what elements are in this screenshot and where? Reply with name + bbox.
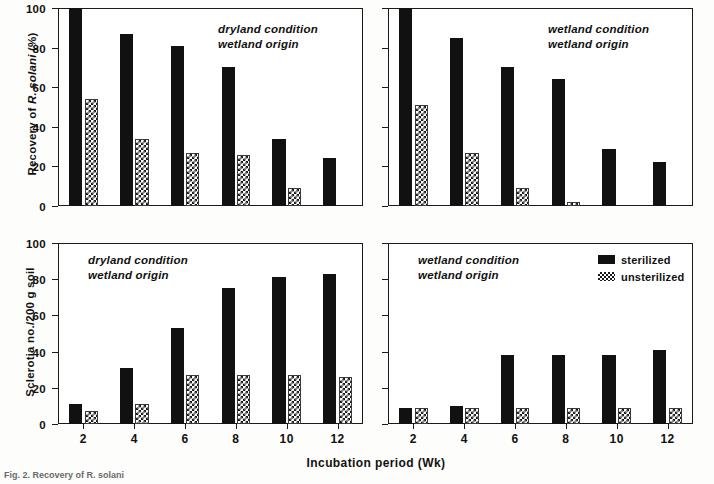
bar-unsterilized-wk10 bbox=[288, 375, 301, 424]
x-tick-wk12 bbox=[668, 424, 669, 429]
x-tick-label-wk2: 2 bbox=[80, 432, 87, 446]
y-tick-60: 60 bbox=[52, 87, 58, 88]
y-tick-100 bbox=[382, 8, 388, 9]
legend-label-sterilized: sterilized bbox=[621, 254, 671, 266]
legend-swatch-sterilized-icon bbox=[598, 255, 615, 264]
axis-layer-top-left: 020406080100 bbox=[58, 8, 363, 206]
legend-item-unsterilized: unsterilized bbox=[598, 269, 685, 284]
axis-layer-bottom-left: 02040608010024681012 bbox=[58, 243, 363, 424]
figure-caption: Fig. 2. Recovery of R. solani bbox=[4, 470, 264, 483]
y-tick-0 bbox=[382, 424, 388, 425]
y-tick-20 bbox=[382, 166, 388, 167]
x-tick-label-wk4: 4 bbox=[131, 432, 138, 446]
axis-layer-top-right bbox=[388, 8, 693, 206]
y-tick-label-0: 0 bbox=[39, 199, 46, 215]
bar-unsterilized-wk10 bbox=[288, 188, 301, 206]
y-tick-20: 20 bbox=[52, 166, 58, 167]
x-tick-label-wk12: 12 bbox=[330, 432, 344, 446]
x-tick-label-wk6: 6 bbox=[511, 432, 518, 446]
bar-unsterilized-wk4 bbox=[465, 408, 478, 424]
bar-sterilized-wk2 bbox=[69, 8, 82, 206]
y-tick-20: 20 bbox=[52, 388, 58, 389]
bar-unsterilized-wk6 bbox=[186, 375, 199, 424]
bar-sterilized-wk6 bbox=[171, 328, 184, 424]
x-tick-label-wk10: 10 bbox=[610, 432, 624, 446]
bar-unsterilized-wk2 bbox=[85, 411, 98, 424]
bar-sterilized-wk8 bbox=[552, 79, 565, 206]
bar-sterilized-wk2 bbox=[69, 404, 82, 424]
y-tick-60: 60 bbox=[52, 315, 58, 316]
panel-bottom-left: dryland condition wetland origin 0204060… bbox=[58, 243, 363, 424]
bar-sterilized-wk6 bbox=[171, 46, 184, 206]
legend-label-unsterilized: unsterilized bbox=[621, 271, 685, 283]
bar-sterilized-wk8 bbox=[222, 288, 235, 424]
figure-container: dryland condition wetland origin 0204060… bbox=[0, 0, 714, 484]
bar-unsterilized-wk6 bbox=[516, 408, 529, 424]
bar-sterilized-wk10 bbox=[602, 149, 615, 206]
y-tick-0: 0 bbox=[52, 424, 58, 425]
x-tick-wk10 bbox=[617, 424, 618, 429]
y-tick-100: 100 bbox=[52, 243, 58, 244]
y-tick-label-100: 100 bbox=[26, 236, 46, 252]
x-tick-label-wk8: 8 bbox=[562, 432, 569, 446]
legend-swatch-unsterilized-icon bbox=[598, 272, 615, 281]
bar-unsterilized-wk8 bbox=[567, 408, 580, 424]
x-tick-wk6 bbox=[515, 424, 516, 429]
y-tick-60 bbox=[382, 87, 388, 88]
bar-sterilized-wk4 bbox=[120, 368, 133, 424]
y-axis-label-bottom: Sclerotia no./200 g soil bbox=[24, 252, 36, 412]
y-tick-40: 40 bbox=[52, 127, 58, 128]
bar-sterilized-wk10 bbox=[602, 355, 615, 424]
bar-sterilized-wk10 bbox=[272, 139, 285, 206]
bar-unsterilized-wk8 bbox=[237, 155, 250, 206]
bar-unsterilized-wk6 bbox=[186, 153, 199, 206]
bar-sterilized-wk12 bbox=[653, 350, 666, 424]
bar-sterilized-wk6 bbox=[501, 67, 514, 206]
y-tick-20 bbox=[382, 388, 388, 389]
bar-unsterilized-wk4 bbox=[135, 139, 148, 206]
y-tick-100 bbox=[382, 243, 388, 244]
bar-sterilized-wk4 bbox=[120, 34, 133, 206]
y-tick-60 bbox=[382, 315, 388, 316]
bar-sterilized-wk12 bbox=[323, 158, 336, 206]
bar-sterilized-wk2 bbox=[399, 8, 412, 206]
bar-unsterilized-wk2 bbox=[85, 99, 98, 206]
bar-unsterilized-wk8 bbox=[567, 202, 580, 206]
y-tick-label-0: 0 bbox=[39, 417, 46, 433]
x-tick-label-wk12: 12 bbox=[660, 432, 674, 446]
y-tick-label-100: 100 bbox=[26, 1, 46, 17]
bar-unsterilized-wk4 bbox=[465, 153, 478, 206]
bar-unsterilized-wk4 bbox=[135, 404, 148, 424]
bar-sterilized-wk8 bbox=[552, 355, 565, 424]
x-tick-wk8 bbox=[566, 424, 567, 429]
x-tick-wk4 bbox=[464, 424, 465, 429]
bar-sterilized-wk8 bbox=[222, 67, 235, 206]
panel-top-left: dryland condition wetland origin 0204060… bbox=[58, 8, 363, 206]
x-tick-wk6 bbox=[185, 424, 186, 429]
y-tick-80: 80 bbox=[52, 48, 58, 49]
y-axis-label-top: Recovery of R. solani (%) bbox=[26, 24, 38, 184]
y-tick-40: 40 bbox=[52, 352, 58, 353]
bar-unsterilized-wk12 bbox=[339, 377, 352, 424]
x-tick-wk10 bbox=[287, 424, 288, 429]
bar-sterilized-wk12 bbox=[653, 162, 666, 206]
y-tick-0: 0 bbox=[52, 206, 58, 207]
y-tick-100: 100 bbox=[52, 8, 58, 9]
legend: sterilized unsterilized bbox=[598, 252, 685, 286]
bar-sterilized-wk10 bbox=[272, 277, 285, 424]
x-tick-wk8 bbox=[236, 424, 237, 429]
y-tick-40 bbox=[382, 352, 388, 353]
bar-sterilized-wk6 bbox=[501, 355, 514, 424]
x-tick-wk2 bbox=[413, 424, 414, 429]
y-tick-80 bbox=[382, 279, 388, 280]
bar-sterilized-wk4 bbox=[450, 406, 463, 424]
y-tick-80: 80 bbox=[52, 279, 58, 280]
x-tick-wk4 bbox=[134, 424, 135, 429]
bar-sterilized-wk12 bbox=[323, 274, 336, 424]
bar-unsterilized-wk2 bbox=[415, 408, 428, 424]
bar-unsterilized-wk8 bbox=[237, 375, 250, 424]
bar-unsterilized-wk12 bbox=[669, 408, 682, 424]
bar-sterilized-wk4 bbox=[450, 38, 463, 206]
panel-top-right: wetland condition wetland origin bbox=[388, 8, 693, 206]
bar-unsterilized-wk10 bbox=[618, 408, 631, 424]
